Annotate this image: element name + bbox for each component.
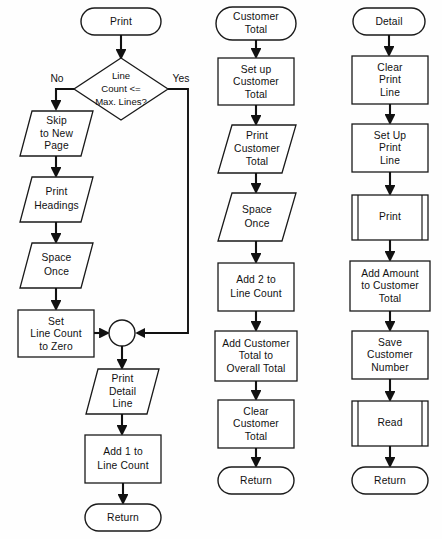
node-label-total4: Total <box>379 293 402 304</box>
decision-label-line-1: Line <box>112 70 130 81</box>
node-label-space: Space <box>42 252 72 263</box>
flowline-yes-branch <box>137 89 188 333</box>
node-label-print2: Print <box>379 74 401 85</box>
node-label-print-detail-2: Detail <box>109 386 136 397</box>
node-add-1-to-line-count: Add 1 to Line Count <box>85 435 161 483</box>
node-connector-circle <box>109 320 135 346</box>
node-label-to-new: to New <box>40 128 73 139</box>
node-label-line3: Line <box>380 155 400 166</box>
node-return-col3: Return <box>352 467 428 494</box>
node-clear-customer-total: Clear Customer Total <box>218 400 294 448</box>
node-save-customer-number: Save Customer Number <box>352 331 428 379</box>
node-label-line-count2: Line Count <box>97 460 148 471</box>
node-label-customer4: Customer <box>367 349 413 360</box>
node-label-detail: Detail <box>375 16 402 27</box>
node-set-up-customer-total: Set up Customer Total <box>218 58 294 105</box>
node-add-amount-to-customer-total: Add Amount to Customer Total <box>350 261 430 311</box>
node-label-print-headings-2: Headings <box>34 200 79 211</box>
node-label-print-cust-1: Print <box>246 130 268 141</box>
node-label-number: Number <box>371 362 409 373</box>
node-label-read-sub: Read <box>377 417 402 428</box>
node-label-add2to: Add 2 to <box>236 274 276 285</box>
node-label-print-sub: Print <box>379 211 401 222</box>
node-return-col2: Return <box>218 467 294 494</box>
node-print-predefined-process: Print <box>352 195 428 240</box>
node-print-customer-total: Print Customer Total <box>218 125 296 173</box>
node-label-total: Total <box>245 24 268 35</box>
node-label-to-zero: to Zero <box>39 341 73 352</box>
flowchart-svg: Print Line Count <= Max. Lines? No Yes S… <box>0 0 442 539</box>
node-label-customer: Customer <box>233 11 279 22</box>
node-label-print-detail-3: Line <box>112 398 132 409</box>
node-customer-total-terminal: Customer Total <box>216 7 296 40</box>
node-label-setup2: Set Up <box>374 130 407 141</box>
node-label-total-to: Total to <box>239 350 274 361</box>
node-label-line2: Line <box>380 87 400 98</box>
node-clear-print-line: Clear Print Line <box>352 56 428 104</box>
node-label-print-cust-3: Total <box>246 156 269 167</box>
node-label-setup: Set up <box>241 64 272 75</box>
node-label-add1to: Add 1 to <box>103 446 143 457</box>
flowchart-canvas: Print Line Count <= Max. Lines? No Yes S… <box>0 0 442 539</box>
node-set-up-print-line: Set Up Print Line <box>352 124 428 172</box>
node-label-return2: Return <box>240 475 272 486</box>
node-label-save: Save <box>378 337 402 348</box>
node-label-to-customer: to Customer <box>361 280 419 291</box>
node-label-once: Once <box>44 266 69 277</box>
node-label-space2: Space <box>242 204 272 215</box>
node-read-predefined-process: Read <box>352 401 428 446</box>
node-label-add-amount: Add Amount <box>361 268 419 279</box>
node-print-terminal: Print <box>81 8 161 35</box>
node-label-set: Set <box>48 316 64 327</box>
node-label-overall-total: Overall Total <box>227 363 286 374</box>
node-label-clear: Clear <box>243 406 269 417</box>
node-label-print3: Print <box>379 142 401 153</box>
node-label-print-cust-2: Customer <box>234 143 280 154</box>
node-space-once-col2: Space Once <box>218 193 296 241</box>
node-set-line-count-to-zero: Set Line Count to Zero <box>18 310 94 357</box>
decision-label-line-2: Count <= <box>101 83 141 94</box>
node-label-customer3: Customer <box>233 418 279 429</box>
node-label-print-detail-1: Print <box>112 373 134 384</box>
node-space-once-col1: Space Once <box>20 243 93 288</box>
node-label-once2: Once <box>244 218 269 229</box>
node-label-skip: Skip <box>46 115 67 126</box>
node-label-return1: Return <box>107 512 139 523</box>
node-label-return3: Return <box>374 475 406 486</box>
node-return-col1: Return <box>85 504 161 531</box>
node-label-print-headings-1: Print <box>46 186 68 197</box>
branch-label-yes: Yes <box>173 73 190 84</box>
decision-label-line-3: Max. Lines? <box>95 96 147 107</box>
node-label-total2: Total <box>245 89 268 100</box>
node-add-2-to-line-count: Add 2 to Line Count <box>218 263 294 311</box>
node-label-clear2: Clear <box>377 62 403 73</box>
node-label-customer2: Customer <box>233 76 279 87</box>
node-label-total3: Total <box>245 431 268 442</box>
node-label-print: Print <box>110 16 132 27</box>
branch-label-no: No <box>50 73 63 84</box>
node-label-add-cust: Add Customer <box>222 338 290 349</box>
node-label-line-count: Line Count <box>30 328 81 339</box>
node-skip-to-new-page: Skip to New Page <box>20 111 93 156</box>
node-label-line-count3: Line Count <box>230 288 281 299</box>
node-print-headings: Print Headings <box>20 177 93 222</box>
node-label-page: Page <box>44 140 69 151</box>
node-print-detail-line: Print Detail Line <box>86 369 159 414</box>
node-add-customer-total-to-overall: Add Customer Total to Overall Total <box>215 331 297 381</box>
node-detail-terminal: Detail <box>353 8 425 35</box>
flowline-no-branch <box>56 89 74 109</box>
